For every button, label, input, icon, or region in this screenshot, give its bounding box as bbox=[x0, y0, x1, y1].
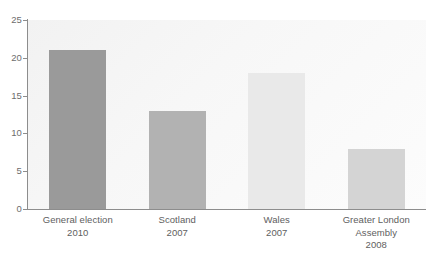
x-axis-label-line: 2008 bbox=[324, 239, 428, 252]
x-axis-label-line: 2007 bbox=[225, 227, 329, 240]
x-axis-label-greater-london-assembly: Greater LondonAssembly2008 bbox=[324, 214, 428, 252]
bar-general-election-2010 bbox=[49, 50, 106, 209]
y-axis-label-15: 15 bbox=[0, 91, 22, 101]
plot-area bbox=[28, 20, 426, 209]
y-axis-line bbox=[27, 19, 28, 210]
y-axis-tick-5 bbox=[23, 171, 27, 172]
y-axis-label-25: 25 bbox=[0, 15, 22, 25]
y-axis-label-20: 20 bbox=[0, 53, 22, 63]
x-axis-label-general-election: General election2010 bbox=[26, 214, 130, 239]
x-axis-label-line: Scotland bbox=[125, 214, 229, 227]
x-axis-label-line: Assembly bbox=[324, 227, 428, 240]
y-axis-tick-15 bbox=[23, 96, 27, 97]
y-axis-label-0: 0 bbox=[0, 204, 22, 214]
bar-wales-2007 bbox=[248, 73, 305, 209]
y-axis-label-10: 10 bbox=[0, 128, 22, 138]
x-axis-label-line: Wales bbox=[225, 214, 329, 227]
y-axis-tick-25 bbox=[23, 20, 27, 21]
x-axis-label-line: Greater London bbox=[324, 214, 428, 227]
y-axis-label-5: 5 bbox=[0, 166, 22, 176]
x-axis-label-line: 2010 bbox=[26, 227, 130, 240]
x-axis-label-line: 2007 bbox=[125, 227, 229, 240]
x-axis-line bbox=[27, 209, 426, 210]
bar-greater-london-assembly-2008 bbox=[348, 149, 405, 209]
bar-scotland-2007 bbox=[149, 111, 206, 209]
bar-chart: 0510152025 General election2010Scotland2… bbox=[0, 0, 445, 264]
y-axis-tick-10 bbox=[23, 133, 27, 134]
x-axis-label-line: General election bbox=[26, 214, 130, 227]
y-axis-tick-20 bbox=[23, 58, 27, 59]
x-axis-label-wales: Wales2007 bbox=[225, 214, 329, 239]
x-axis-label-scotland: Scotland2007 bbox=[125, 214, 229, 239]
y-axis-tick-0 bbox=[23, 209, 27, 210]
